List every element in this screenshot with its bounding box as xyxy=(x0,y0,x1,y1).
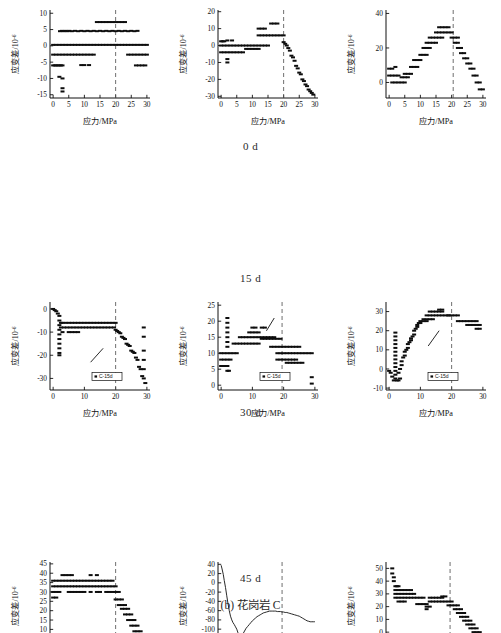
svg-text:应变差/10-6: 应变差/10-6 xyxy=(346,34,356,73)
svg-text:30: 30 xyxy=(311,100,319,109)
svg-text:应力/MPa: 应力/MPa xyxy=(83,116,117,126)
svg-text:0: 0 xyxy=(51,100,55,109)
svg-text:0: 0 xyxy=(211,381,215,390)
svg-text:-20: -20 xyxy=(37,351,47,360)
svg-text:0: 0 xyxy=(379,78,383,87)
svg-text:20: 20 xyxy=(280,100,288,109)
row-label-30d: 30 d xyxy=(0,406,501,418)
svg-text:15: 15 xyxy=(40,616,48,625)
svg-text:40: 40 xyxy=(208,560,216,569)
svg-text:25: 25 xyxy=(128,100,136,109)
svg-text:30: 30 xyxy=(479,392,487,401)
svg-text:0: 0 xyxy=(43,305,47,314)
svg-text:15: 15 xyxy=(432,100,440,109)
plot-panel-r2c1: -30-20-1000102030C-15d应力/MPa应变差/10-6 xyxy=(8,292,158,420)
svg-text:30: 30 xyxy=(143,100,151,109)
svg-text:30: 30 xyxy=(311,392,319,401)
plot-row-15d: -30-20-1000102030C-15d应力/MPa应变差/10-6 051… xyxy=(0,292,501,422)
svg-text:-15: -15 xyxy=(37,90,47,99)
plot-row-30d: 051015202530354045051015202530应力/MPa应变差/… xyxy=(0,552,501,633)
row-label-45d: 45 d xyxy=(0,572,501,584)
svg-text:5: 5 xyxy=(67,100,71,109)
svg-text:5: 5 xyxy=(403,100,407,109)
svg-text:20: 20 xyxy=(448,392,456,401)
svg-text:20: 20 xyxy=(112,100,120,109)
svg-text:10: 10 xyxy=(249,100,257,109)
svg-text:0: 0 xyxy=(219,392,223,401)
plot-panel-r2c3: -1001020300102030C-15d应力/MPa应变差/10-6 xyxy=(344,292,494,420)
svg-text:0: 0 xyxy=(387,392,391,401)
svg-text:0: 0 xyxy=(51,392,55,401)
svg-text:10: 10 xyxy=(81,100,89,109)
svg-text:0: 0 xyxy=(379,628,383,633)
svg-text:0: 0 xyxy=(211,41,215,50)
svg-text:0: 0 xyxy=(219,100,223,109)
svg-text:40: 40 xyxy=(376,9,384,18)
svg-text:5: 5 xyxy=(235,100,239,109)
row-label-15d: 15 d xyxy=(0,272,501,284)
svg-text:10: 10 xyxy=(376,615,384,624)
plot-panel-r1c2: -30-20-1001020051015202530应力/MPa应变差/10-6 xyxy=(176,0,326,128)
svg-text:应力/MPa: 应力/MPa xyxy=(251,116,285,126)
svg-text:-10: -10 xyxy=(37,74,47,83)
svg-text:10: 10 xyxy=(40,625,48,633)
svg-text:20: 20 xyxy=(376,326,384,335)
svg-text:20: 20 xyxy=(112,392,120,401)
svg-text:25: 25 xyxy=(296,100,304,109)
row-label-0d: 0 d xyxy=(0,140,501,152)
svg-text:20: 20 xyxy=(448,100,456,109)
figure-caption: (b) 花岗岩 C xyxy=(0,596,501,612)
svg-text:5: 5 xyxy=(211,365,215,374)
svg-text:-100: -100 xyxy=(201,625,215,633)
svg-text:10: 10 xyxy=(249,392,257,401)
svg-text:10: 10 xyxy=(81,392,89,401)
svg-text:20: 20 xyxy=(376,44,384,53)
svg-text:10: 10 xyxy=(376,345,384,354)
svg-text:-20: -20 xyxy=(205,75,215,84)
svg-text:应变差/10-6: 应变差/10-6 xyxy=(346,326,356,365)
svg-text:45: 45 xyxy=(40,559,48,568)
svg-text:25: 25 xyxy=(464,100,472,109)
svg-text:C-15d: C-15d xyxy=(267,373,281,379)
svg-text:应变差/10-6: 应变差/10-6 xyxy=(10,34,20,73)
svg-text:应变差/10-6: 应变差/10-6 xyxy=(10,326,20,365)
plot-row-0d: -15-10-50510051015202530应力/MPa应变差/10-6 -… xyxy=(0,0,501,130)
svg-text:应变差/10-6: 应变差/10-6 xyxy=(178,34,188,73)
svg-text:-10: -10 xyxy=(37,328,47,337)
svg-text:30: 30 xyxy=(143,392,151,401)
svg-text:0: 0 xyxy=(43,41,47,50)
svg-text:5: 5 xyxy=(43,25,47,34)
plot-panel-r3c3: -1001020304050051015202530应力/MPa应变差/10-6 xyxy=(344,552,494,633)
svg-text:10: 10 xyxy=(417,392,425,401)
svg-text:20: 20 xyxy=(208,7,216,16)
svg-text:10: 10 xyxy=(40,9,48,18)
svg-text:20: 20 xyxy=(280,392,288,401)
svg-text:15: 15 xyxy=(96,100,104,109)
svg-text:-80: -80 xyxy=(205,615,215,624)
plot-panel-r2c2: 05101520250102030C-15d应力/MPa应变差/10-6 xyxy=(176,292,326,420)
svg-text:C-15d: C-15d xyxy=(435,373,449,379)
svg-text:-10: -10 xyxy=(373,384,383,393)
svg-text:0: 0 xyxy=(387,100,391,109)
svg-text:10: 10 xyxy=(208,24,216,33)
plot-panel-r3c1: 051015202530354045051015202530应力/MPa应变差/… xyxy=(8,552,158,633)
svg-text:15: 15 xyxy=(264,100,272,109)
figure-sheet: -15-10-50510051015202530应力/MPa应变差/10-6 -… xyxy=(0,0,501,633)
svg-text:-5: -5 xyxy=(41,58,47,67)
svg-text:20: 20 xyxy=(208,317,216,326)
svg-text:C-15d: C-15d xyxy=(99,373,113,379)
svg-text:0: 0 xyxy=(379,365,383,374)
plot-panel-r3c2: -140-120-100-80-60-40-200204005101520253… xyxy=(176,552,326,633)
svg-text:-10: -10 xyxy=(205,58,215,67)
plot-panel-r1c1: -15-10-50510051015202530应力/MPa应变差/10-6 xyxy=(8,0,158,128)
svg-text:15: 15 xyxy=(208,333,216,342)
svg-text:30: 30 xyxy=(376,307,384,316)
svg-text:10: 10 xyxy=(417,100,425,109)
svg-text:10: 10 xyxy=(208,349,216,358)
svg-text:-30: -30 xyxy=(205,92,215,101)
svg-text:应变差/10-6: 应变差/10-6 xyxy=(178,326,188,365)
svg-text:-30: -30 xyxy=(37,374,47,383)
svg-text:应力/MPa: 应力/MPa xyxy=(419,116,453,126)
svg-text:30: 30 xyxy=(479,100,487,109)
plot-panel-r1c3: 02040051015202530应力/MPa应变差/10-6 xyxy=(344,0,494,128)
